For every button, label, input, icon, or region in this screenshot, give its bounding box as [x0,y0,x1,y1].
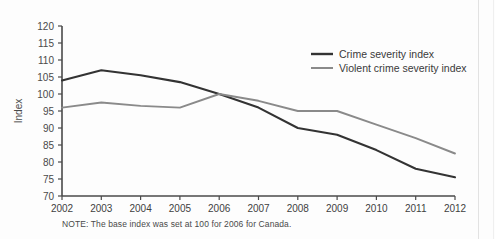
y-axis-title: Index [13,99,24,123]
x-axis-tick-label: 2008 [287,203,310,214]
x-axis-tick-label: 2011 [405,203,427,214]
x-axis-tick-label: 2004 [129,203,152,214]
y-axis-tick-label: 70 [43,191,55,202]
x-axis-tick-label: 2007 [247,203,270,214]
chart-note: NOTE: The base index was set at 100 for … [62,219,291,229]
y-axis-tick-label: 105 [37,72,54,83]
x-axis-tick-label: 2002 [51,203,74,214]
y-axis-tick-label: 75 [43,174,55,185]
legend-label-2: Violent crime severity index [339,62,467,74]
y-axis-tick-label: 100 [37,89,54,100]
x-axis-tick-label: 2003 [90,203,113,214]
legend-label-1: Crime severity index [339,48,435,60]
series-line-1 [62,70,455,177]
y-axis-tick-label: 95 [43,106,55,117]
x-axis-tick-label: 2012 [444,203,467,214]
series-line-2 [62,94,455,154]
y-axis-tick-label: 90 [43,123,55,134]
y-axis-tick-label: 110 [38,55,54,66]
y-axis-tick-label: 115 [38,38,54,49]
y-axis-tick-label: 120 [37,21,54,32]
x-axis-tick-label: 2010 [365,203,388,214]
line-chart: 7075808590951001051101151202002200320042… [0,0,495,239]
chart-figure: 7075808590951001051101151202002200320042… [0,0,495,239]
plot-area: 7075808590951001051101151202002200320042… [0,0,495,239]
y-axis-tick-label: 85 [43,140,55,151]
y-axis-tick-label: 80 [43,157,55,168]
x-axis-tick-label: 2005 [169,203,192,214]
x-axis-tick-label: 2009 [326,203,349,214]
x-axis-tick-label: 2006 [208,203,231,214]
